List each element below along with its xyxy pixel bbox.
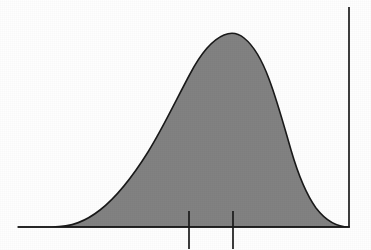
distribution-figure (0, 0, 371, 250)
chart-canvas (0, 0, 371, 250)
density-curve-area (18, 33, 349, 227)
